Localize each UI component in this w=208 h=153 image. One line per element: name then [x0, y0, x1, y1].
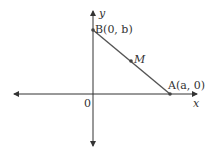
origin-label: 0 [84, 98, 91, 109]
point-b-label: B(0, b) [95, 24, 133, 35]
point-a [168, 92, 172, 96]
point-m-label: M [134, 54, 145, 65]
y-axis-label: y [99, 8, 105, 19]
point-m [129, 59, 133, 63]
diagram: y B(0, b) M A(a, 0) 0 x [0, 0, 208, 153]
x-axis-label: x [193, 98, 199, 109]
point-a-label: A(a, 0) [168, 80, 205, 91]
